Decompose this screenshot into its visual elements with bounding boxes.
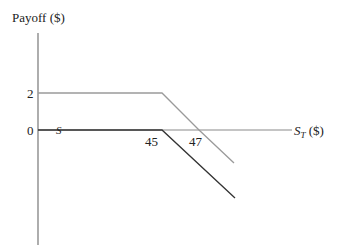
x-tick-45: 45 xyxy=(145,134,158,149)
payoff-chart: S Payoff ($) 2 0 45 47 ST ($) xyxy=(0,0,342,248)
axis-break-marker: S xyxy=(56,124,62,136)
y-tick-0: 0 xyxy=(27,123,34,138)
y-axis-label: Payoff ($) xyxy=(12,10,65,25)
x-axis-label: ST ($) xyxy=(294,123,324,140)
series-dark-line xyxy=(38,130,235,198)
y-tick-2: 2 xyxy=(27,86,34,101)
series-gray-line xyxy=(38,93,234,163)
x-label-unit: ($) xyxy=(306,123,324,138)
x-tick-47: 47 xyxy=(189,134,203,149)
